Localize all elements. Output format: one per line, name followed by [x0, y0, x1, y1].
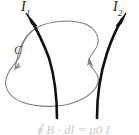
label-current-I2-subscript: 2: [118, 8, 122, 18]
diagram-canvas: [0, 0, 139, 135]
label-current-I1-subscript: 1: [26, 8, 30, 18]
label-contour-C: C: [14, 44, 22, 56]
ampere-law-formula: ∮ B · dl = μ0 I: [36, 123, 110, 135]
label-current-I1: I1: [21, 0, 30, 16]
label-current-I2-symbol: I: [113, 0, 118, 14]
ampere-contour-loop: [6, 21, 99, 106]
label-current-I1-symbol: I: [21, 0, 26, 14]
formula-clipped-strip: ∮ B · dl = μ0 I: [0, 123, 139, 135]
label-current-I2: I2: [113, 0, 122, 16]
ampere-law-diagram: I1 I2 C ∮ B · dl = μ0 I: [0, 0, 139, 135]
current-wire-I2: [97, 19, 122, 118]
current-wire-I1: [31, 20, 57, 118]
